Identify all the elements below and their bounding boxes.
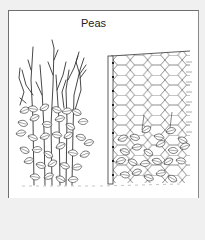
pea-foliage-left: [15, 102, 94, 184]
netting-post: [108, 56, 114, 184]
